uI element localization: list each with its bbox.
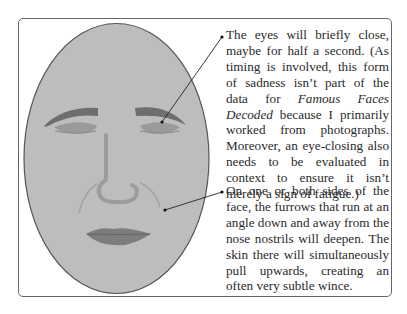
leader-dot-eyes-end bbox=[160, 120, 163, 123]
callout-furrows-text: On one or both sides of the face, the fu… bbox=[226, 183, 389, 293]
leader-dot-eyes-start bbox=[220, 35, 223, 38]
leader-dot-furrows-end bbox=[163, 208, 166, 211]
leader-dot-furrows-start bbox=[220, 190, 223, 193]
callout-eyes: The eyes will briefly close, maybe for h… bbox=[226, 27, 389, 202]
head-outline bbox=[24, 24, 209, 294]
callout-furrows: On one or both sides of the face, the fu… bbox=[226, 183, 389, 294]
